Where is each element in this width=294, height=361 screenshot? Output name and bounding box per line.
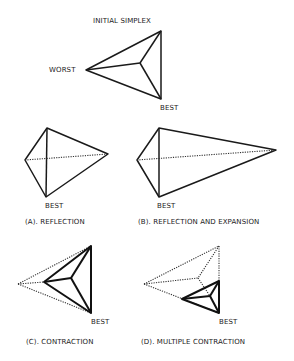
worst-vertex-label: WORST <box>49 66 76 74</box>
multiple-contraction-caption: (D). MULTIPLE CONTRACTION <box>141 338 245 346</box>
simplex-diagram <box>0 0 294 361</box>
expansion-best-label: BEST <box>157 202 175 210</box>
contraction-caption: (C). CONTRACTION <box>26 338 94 346</box>
multiple-contraction-figure <box>144 246 219 313</box>
reflection-best-label: BEST <box>45 202 63 210</box>
reflection-caption: (A). REFLECTION <box>25 218 85 226</box>
contraction-figure <box>18 246 91 313</box>
best-vertex-label: BEST <box>160 104 178 112</box>
reflection-figure <box>25 128 108 197</box>
initial-simplex-caption: INITIAL SIMPLEX <box>93 17 151 25</box>
initial-simplex-figure <box>86 31 161 99</box>
contraction-best-label: BEST <box>91 318 109 326</box>
expansion-caption: (B). REFLECTION AND EXPANSION <box>138 218 259 226</box>
reflection-expansion-figure <box>137 128 276 197</box>
multiple-contraction-best-label: BEST <box>219 318 237 326</box>
